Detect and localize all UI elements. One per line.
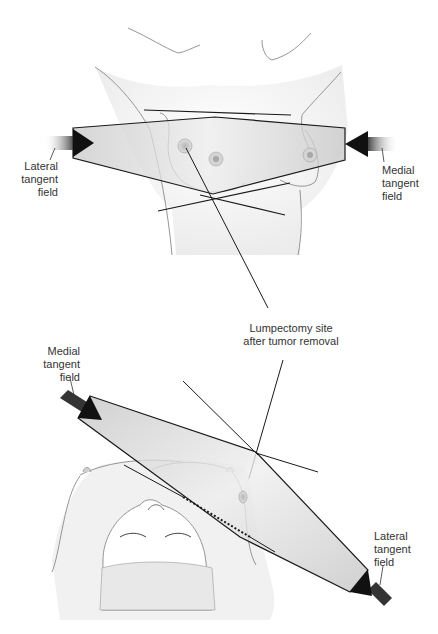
lateral-arrow-tail-top	[44, 136, 78, 150]
label-line: tangent	[30, 358, 80, 371]
label-line: field	[374, 556, 434, 569]
bottom-view	[52, 378, 392, 620]
medial-tangent-field-label-top: Medial tangent field	[382, 164, 436, 203]
label-line: field	[30, 371, 80, 384]
right-clavicle-line	[262, 33, 311, 60]
lumpectomy-site-bottom	[239, 491, 247, 503]
lateral-tangent-field-label-top: Lateral tangent field	[8, 160, 58, 199]
label-line: after tumor removal	[226, 335, 356, 348]
top-view	[44, 28, 398, 255]
label-line: Lateral	[8, 160, 58, 173]
hair	[100, 562, 215, 610]
lateral-tangent-field-label-bottom: Lateral tangent field	[374, 530, 434, 569]
label-line: tangent	[374, 543, 434, 556]
medial-arrow-tail-top	[364, 137, 398, 151]
lumpectomy-site-label: Lumpectomy site after tumor removal	[226, 322, 356, 348]
label-line: Lateral	[374, 530, 434, 543]
left-nipple-bottom	[83, 468, 91, 473]
label-line: Medial	[382, 164, 436, 177]
lumpectomy-site-top	[178, 139, 192, 153]
medial-tangent-field-label-bottom: Medial tangent field	[30, 345, 80, 384]
label-line: tangent	[8, 173, 58, 186]
label-line: tangent	[382, 177, 436, 190]
left-nipple-center	[213, 156, 219, 162]
label-line: field	[382, 190, 436, 203]
label-line: Lumpectomy site	[226, 322, 356, 335]
label-line: field	[8, 186, 58, 199]
right-nipple-center	[307, 152, 313, 158]
left-clavicle-line	[128, 28, 200, 53]
medial-arrow-head-top	[345, 131, 368, 157]
label-line: Medial	[30, 345, 80, 358]
breast-tangent-field-diagram	[0, 0, 438, 634]
